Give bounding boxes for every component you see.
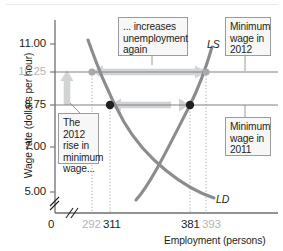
x-tick-label-292: 292 xyxy=(82,218,101,230)
x-tick-label-381: 381 xyxy=(181,218,200,230)
labour-demand-label: LD xyxy=(216,193,229,205)
x-tick-label-393: 393 xyxy=(202,218,221,230)
marker-292-1025 xyxy=(88,68,95,75)
marker-393-1025 xyxy=(202,68,209,75)
minimum-wage-figure: 11.00 10.25 8.75 7.00 5.00 0 292 311 381… xyxy=(0,0,283,251)
callout-2012-rise: The 2012 rise in minimum wage... xyxy=(58,113,99,164)
x-tick-label-311: 311 xyxy=(103,218,121,230)
marker-381-875 xyxy=(186,101,194,109)
labour-demand-curve xyxy=(88,40,214,198)
origin-label: 0 xyxy=(48,218,54,230)
callout-min-wage-2011: Minimum wage in 2011 xyxy=(225,117,271,156)
axis-break-marks xyxy=(50,197,78,218)
x-axis-title: Employment (persons) xyxy=(164,235,266,246)
y-axis-ticks xyxy=(50,44,55,192)
marker-311-875 xyxy=(106,101,114,109)
y-axis-title: Wage rate (dollars per hour) xyxy=(23,31,34,201)
callout-unemployment-increase: ... increases unemployment again xyxy=(118,17,188,56)
wage-rise-arrow xyxy=(61,70,74,105)
callout-min-wage-2012: Minimum wage in 2012 xyxy=(225,17,271,56)
labour-supply-label: LS xyxy=(207,38,220,50)
